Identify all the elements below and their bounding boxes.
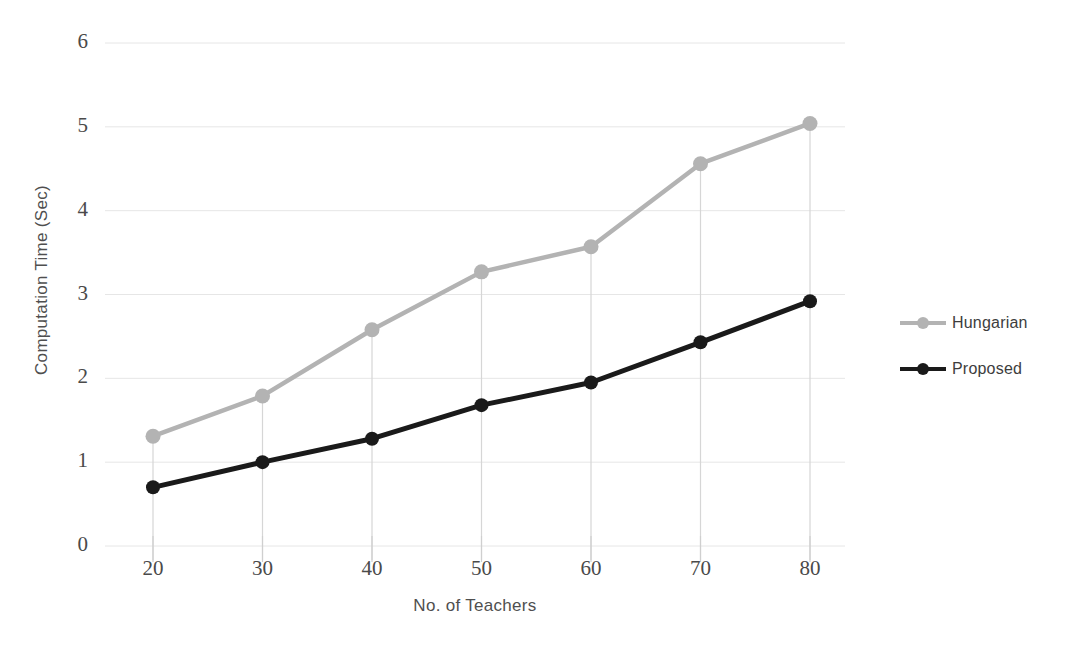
droplines-group: [153, 123, 810, 560]
y-tick-label-3: 3: [48, 281, 88, 306]
y-axis-title: Computation Time (Sec): [32, 110, 52, 450]
x-tick-label-70: 70: [671, 556, 731, 581]
chart-figure: 0123456 20304050607080 No. of Teachers C…: [0, 0, 1088, 648]
y-tick-label-1: 1: [48, 448, 88, 473]
legend-marker-icon: [900, 315, 946, 331]
legend-item-hungarian[interactable]: Hungarian: [900, 300, 1028, 346]
y-tick-label-4: 4: [48, 197, 88, 222]
legend-item-proposed[interactable]: Proposed: [900, 346, 1028, 392]
y-tick-label-5: 5: [48, 113, 88, 138]
x-axis-title: No. of Teachers: [0, 596, 950, 616]
legend-label: Hungarian: [952, 314, 1028, 332]
x-tick-label-40: 40: [342, 556, 402, 581]
x-tick-label-60: 60: [561, 556, 621, 581]
y-tick-label-2: 2: [48, 364, 88, 389]
y-tick-label-0: 0: [48, 532, 88, 557]
legend-marker-icon: [900, 361, 946, 377]
x-tick-label-30: 30: [233, 556, 293, 581]
x-tick-label-20: 20: [123, 556, 183, 581]
chart-legend: HungarianProposed: [900, 300, 1028, 392]
legend-label: Proposed: [952, 360, 1022, 378]
y-tick-label-6: 6: [48, 29, 88, 54]
x-tick-label-80: 80: [780, 556, 840, 581]
x-tick-label-50: 50: [452, 556, 512, 581]
